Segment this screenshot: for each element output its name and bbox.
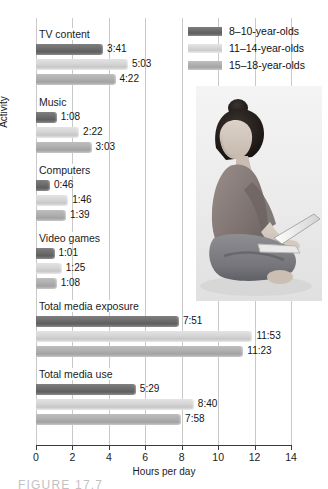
legend-swatch-icon [188, 61, 222, 70]
bar-row: 4:22 [36, 74, 291, 85]
figure-container: TV content3:415:034:22Music1:082:223:03C… [0, 0, 328, 489]
bar-value-label: 1:46 [72, 194, 91, 205]
bar[interactable] [36, 248, 55, 259]
bar[interactable] [36, 142, 92, 153]
x-tick-2 [72, 445, 73, 450]
legend-label: 11–14-year-olds [229, 42, 304, 54]
group-label: Video games [38, 232, 102, 244]
x-tick-label-8: 8 [179, 451, 185, 463]
photo-illustration [196, 86, 322, 301]
bar-value-label: 7:58 [185, 413, 204, 424]
bar-value-label: 0:46 [54, 179, 73, 190]
x-tick-10 [218, 445, 219, 450]
group-label: Total media use [38, 368, 115, 380]
bar-value-label: 1:39 [70, 209, 89, 220]
bar[interactable] [36, 44, 103, 55]
bar-row: 7:58 [36, 414, 291, 425]
bar[interactable] [36, 210, 66, 221]
bar-value-label: 3:41 [107, 43, 126, 54]
legend-item[interactable]: 8–10-year-olds [188, 24, 305, 38]
legend-item[interactable]: 11–14-year-olds [188, 41, 305, 55]
bar-value-label: 1:25 [66, 262, 85, 273]
x-tick-label-4: 4 [106, 451, 112, 463]
bar-row: 8:40 [36, 399, 291, 410]
bar[interactable] [36, 316, 179, 327]
bar-value-label: 3:03 [96, 141, 115, 152]
x-axis-label: Hours per day [0, 466, 328, 477]
legend-label: 15–18-year-olds [229, 59, 305, 71]
bar-value-label: 5:29 [140, 383, 159, 394]
bar-row: 11:23 [36, 346, 291, 357]
bar[interactable] [36, 346, 243, 357]
x-tick-4 [109, 445, 110, 450]
x-tick-label-0: 0 [33, 451, 39, 463]
bar-row: 11:53 [36, 331, 291, 342]
legend-label: 8–10-year-olds [229, 25, 299, 37]
x-tick-14 [291, 445, 292, 450]
bar-value-label: 11:53 [256, 330, 280, 341]
bar-group: Total media exposure7:5111:5311:23 [36, 300, 291, 361]
group-label: TV content [38, 28, 92, 40]
legend-swatch-icon [188, 27, 222, 36]
x-tick-6 [145, 445, 146, 450]
x-tick-label-12: 12 [249, 451, 261, 463]
bar-value-label: 7:51 [183, 315, 202, 326]
bar-group: Total media use5:298:407:58 [36, 368, 291, 429]
bar-value-label: 8:40 [198, 398, 217, 409]
bar[interactable] [36, 263, 62, 274]
x-tick-label-10: 10 [212, 451, 224, 463]
bar[interactable] [36, 112, 57, 123]
bar-row: 7:51 [36, 316, 291, 327]
legend: 8–10-year-olds11–14-year-olds15–18-year-… [188, 24, 305, 75]
bar[interactable] [36, 278, 57, 289]
x-tick-label-6: 6 [142, 451, 148, 463]
bar[interactable] [36, 180, 50, 191]
bar-value-label: 1:08 [61, 111, 80, 122]
bar-value-label: 5:03 [132, 58, 151, 69]
legend-item[interactable]: 15–18-year-olds [188, 58, 305, 72]
bar-value-label: 1:01 [59, 247, 78, 258]
bar-value-label: 11:23 [247, 345, 271, 356]
bar[interactable] [36, 399, 194, 410]
group-label: Computers [38, 164, 92, 176]
legend-swatch-icon [188, 44, 222, 53]
bar[interactable] [36, 331, 252, 342]
bar[interactable] [36, 414, 181, 425]
bar[interactable] [36, 59, 128, 70]
x-tick-8 [182, 445, 183, 450]
photo-woman-with-laptop [196, 86, 322, 301]
bar[interactable] [36, 74, 116, 85]
bar[interactable] [36, 384, 136, 395]
bar-value-label: 2:22 [83, 126, 102, 137]
figure-caption: FIGURE 17.7 [18, 478, 103, 489]
x-tick-label-2: 2 [70, 451, 76, 463]
x-tick-label-14: 14 [285, 451, 297, 463]
y-axis-label: Activity [0, 52, 9, 172]
group-label: Music [38, 96, 68, 108]
bar-row: 5:29 [36, 384, 291, 395]
bar[interactable] [36, 195, 68, 206]
group-label: Total media exposure [38, 300, 141, 312]
x-tick-12 [255, 445, 256, 450]
bar[interactable] [36, 127, 79, 138]
bar-value-label: 1:08 [61, 277, 80, 288]
x-tick-0 [36, 445, 37, 450]
bar-value-label: 4:22 [120, 73, 139, 84]
